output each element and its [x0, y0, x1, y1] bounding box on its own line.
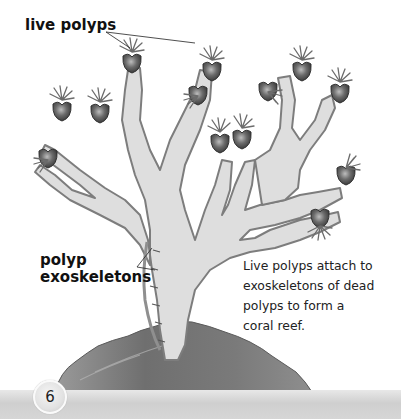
polyp — [293, 62, 311, 81]
polyp — [233, 130, 251, 149]
polyp — [53, 102, 71, 121]
live-polyps-label: live polyps — [25, 17, 116, 34]
caption-text: Live polyps attach to exoskeletons of de… — [243, 256, 401, 336]
caption-line: Live polyps attach to — [243, 256, 401, 276]
caption-line: polyps to form a — [243, 296, 401, 316]
coral-illustration — [0, 0, 401, 419]
polyp — [91, 104, 109, 123]
page-number-badge: 6 — [33, 380, 67, 414]
page-number: 6 — [45, 388, 55, 406]
polyp-exoskeletons-label: polyp exoskeletons — [40, 252, 151, 286]
polyp — [211, 134, 229, 153]
leader-live-polyps — [106, 32, 195, 48]
polyp-exoskeletons-line1: polyp — [40, 252, 151, 269]
live-polyps-label-text: live polyps — [25, 16, 116, 34]
book-page: live polyps polyp exoskeletons Live poly… — [0, 0, 401, 419]
caption-line: coral reef. — [243, 316, 401, 336]
caption-line: exoskeletons of dead — [243, 276, 401, 296]
polyp-exoskeletons-line2: exoskeletons — [40, 269, 151, 286]
